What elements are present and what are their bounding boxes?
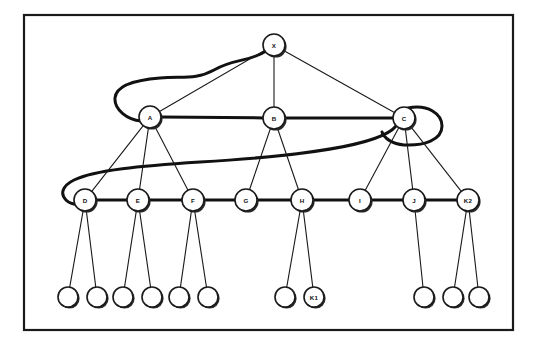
node-circle[interactable] bbox=[113, 287, 133, 307]
node-label: I bbox=[359, 197, 361, 204]
edge-F-L6 bbox=[195, 210, 207, 288]
edge-B-H bbox=[277, 127, 299, 190]
node-B[interactable]: B bbox=[263, 107, 287, 131]
edge-K2-L9 bbox=[454, 210, 466, 288]
node-L4[interactable] bbox=[142, 287, 164, 309]
edge-H-L7 bbox=[287, 210, 301, 288]
edge-E-L3 bbox=[124, 210, 136, 288]
node-L10[interactable] bbox=[469, 287, 491, 309]
edge-D-L2 bbox=[86, 210, 96, 288]
node-label: A bbox=[148, 114, 153, 121]
edge-A-D bbox=[91, 125, 144, 192]
node-label: G bbox=[243, 197, 248, 204]
node-label: C bbox=[402, 115, 407, 122]
edge-C-K2 bbox=[410, 126, 462, 192]
node-A[interactable]: A bbox=[139, 106, 163, 130]
node-label: E bbox=[136, 197, 140, 204]
node-L3[interactable] bbox=[113, 287, 135, 309]
sibling-edge-A-B bbox=[160, 117, 264, 118]
edge-J-L8 bbox=[415, 210, 423, 288]
node-L6[interactable] bbox=[198, 287, 220, 309]
node-I[interactable]: I bbox=[349, 189, 373, 213]
node-circle[interactable] bbox=[142, 287, 162, 307]
node-circle[interactable] bbox=[414, 287, 434, 307]
edge-C-J bbox=[405, 128, 413, 190]
node-label: D bbox=[83, 197, 88, 204]
node-E[interactable]: E bbox=[127, 189, 151, 213]
node-graph-svg: XABCDEFGHIJK2K1 bbox=[0, 0, 540, 350]
edge-H-K1 bbox=[303, 210, 313, 288]
node-circle[interactable] bbox=[443, 287, 463, 307]
node-K2[interactable]: K2 bbox=[457, 189, 481, 213]
node-circle[interactable] bbox=[87, 287, 107, 307]
node-circle[interactable] bbox=[58, 287, 78, 307]
node-label: X bbox=[272, 42, 277, 49]
curved-link-loop-x-to-a bbox=[115, 51, 266, 121]
node-L9[interactable] bbox=[443, 287, 465, 309]
node-L5[interactable] bbox=[169, 287, 191, 309]
node-L2[interactable] bbox=[87, 287, 109, 309]
edge-F-L5 bbox=[180, 210, 191, 288]
edge-E-L4 bbox=[139, 210, 150, 288]
edge-X-C bbox=[283, 50, 396, 113]
edge-X-A bbox=[159, 50, 266, 112]
edge-A-F bbox=[155, 126, 189, 191]
node-label: H bbox=[300, 197, 305, 204]
node-circle[interactable] bbox=[469, 287, 489, 307]
edge-D-L1 bbox=[70, 210, 84, 288]
node-L7[interactable] bbox=[275, 287, 297, 309]
node-circle[interactable] bbox=[169, 287, 189, 307]
edge-A-E bbox=[139, 127, 148, 190]
edge-K2-L10 bbox=[469, 210, 478, 288]
node-label: B bbox=[272, 115, 277, 122]
node-label: J bbox=[412, 197, 416, 204]
node-circle[interactable] bbox=[198, 287, 218, 307]
node-L8[interactable] bbox=[414, 287, 436, 309]
node-J[interactable]: J bbox=[403, 189, 427, 213]
diagram-canvas: XABCDEFGHIJK2K1 bbox=[0, 0, 540, 350]
node-G[interactable]: G bbox=[235, 189, 259, 213]
node-circle[interactable] bbox=[275, 287, 295, 307]
node-X[interactable]: X bbox=[263, 34, 287, 58]
node-label: K2 bbox=[464, 197, 473, 204]
node-label: K1 bbox=[310, 294, 319, 301]
node-K1[interactable]: K1 bbox=[304, 287, 326, 309]
node-H[interactable]: H bbox=[291, 189, 315, 213]
node-label: F bbox=[191, 197, 195, 204]
node-L1[interactable] bbox=[58, 287, 80, 309]
node-C[interactable]: C bbox=[393, 107, 417, 131]
node-D[interactable]: D bbox=[74, 189, 98, 213]
node-F[interactable]: F bbox=[182, 189, 206, 213]
